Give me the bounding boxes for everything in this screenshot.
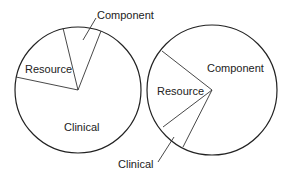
left-resource-label: Resource [25,63,72,75]
pie-charts: Component Resource Clinical Component Re… [0,0,286,181]
right-resource-label: Resource [157,85,204,97]
left-component-label: Component [97,9,154,21]
left-pie: Component Resource Clinical [15,9,154,153]
left-clinical-label: Clinical [64,121,99,133]
right-component-label: Component [207,62,264,74]
right-pie: Component Resource Clinical [118,25,277,170]
right-clinical-leader [158,137,174,162]
right-clinical-label: Clinical [118,158,153,170]
